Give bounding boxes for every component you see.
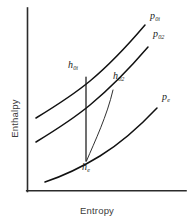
pressure-curves-group (36, 25, 157, 182)
curve-label-pe: pe (162, 92, 170, 102)
enthalpy-entropy-diagram: p0i p02 pe h0i h02 he Entropy Enthalpy (0, 0, 194, 224)
curve-label-pe-subscript: e (167, 96, 170, 103)
state-point-label-h0i-subscript: 0i (73, 64, 78, 71)
curve-label-p02-subscript: 02 (158, 33, 164, 40)
curve-label-p02: p02 (153, 29, 164, 39)
state-point-label-h0i: h0i (68, 60, 78, 70)
chart-plot-area (0, 0, 194, 224)
state-point-label-h02: h02 (113, 71, 124, 81)
state-point-label-h02-subscript: 02 (118, 75, 124, 82)
state-point-label-he: he (82, 162, 90, 172)
process-lines-group (86, 77, 113, 161)
curve-label-p0i-subscript: 0i (155, 15, 160, 22)
curve-label-p0i: p0i (150, 11, 160, 21)
curve-pe (45, 108, 157, 182)
curve-p02 (36, 47, 148, 142)
y-axis-title: Enthalpy (9, 79, 20, 159)
x-axis-title: Entropy (0, 205, 194, 216)
state-point-label-he-subscript: e (87, 166, 90, 173)
